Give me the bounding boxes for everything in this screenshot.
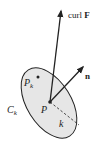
p-label: P: [40, 104, 47, 115]
curl-diagram: curl F n Pk P Ck k: [0, 0, 101, 145]
curl-label: curl F: [68, 10, 90, 20]
n-label: n: [85, 71, 90, 81]
point-pk: [37, 76, 40, 79]
ck-label: Ck: [7, 104, 18, 117]
point-p: [48, 100, 52, 104]
k-label: k: [59, 118, 64, 129]
